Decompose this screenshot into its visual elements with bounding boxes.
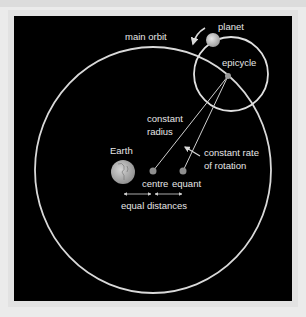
equant-dot xyxy=(180,168,187,175)
centre-dot xyxy=(150,168,157,175)
ptolemaic-model-diagram: planet main orbit epicycle constant radi… xyxy=(0,0,306,317)
constant-rate-label-line2: of rotation xyxy=(204,160,246,171)
epicycle-label: epicycle xyxy=(222,57,256,68)
epicycle-centre-dot xyxy=(225,73,231,79)
equant-label: equant xyxy=(172,178,201,189)
rotation-rate-pointer-arrow xyxy=(185,147,200,156)
equal-distances-label: equal distances xyxy=(121,200,187,211)
planet-label: planet xyxy=(218,21,244,32)
planet-icon xyxy=(206,33,220,47)
centre-label: centre xyxy=(142,178,168,189)
constant-rate-label-line1: constant rate xyxy=(204,147,259,158)
epicycle-circle xyxy=(194,37,268,111)
main-orbit-label: main orbit xyxy=(125,31,167,42)
earth-icon xyxy=(111,160,135,184)
constant-radius-label-line2: radius xyxy=(147,126,173,137)
planet-motion-arrow xyxy=(193,28,205,44)
earth-label: Earth xyxy=(110,145,133,156)
constant-radius-label-line1: constant xyxy=(147,113,183,124)
